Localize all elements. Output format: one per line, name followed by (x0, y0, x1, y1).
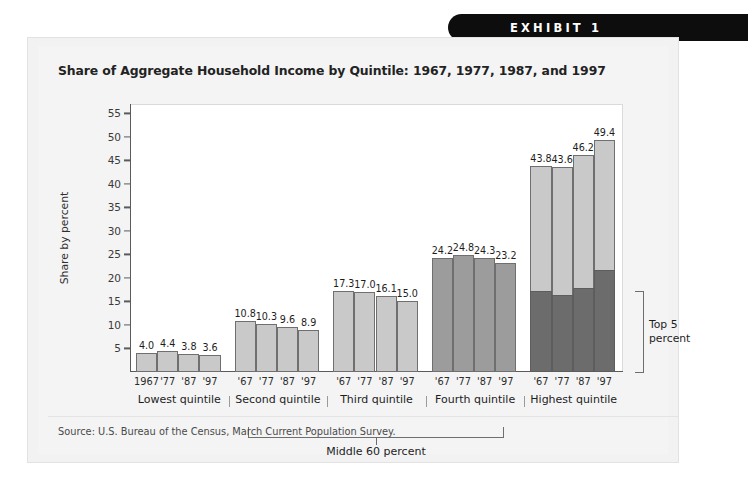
card-divider (48, 416, 678, 417)
y-axis-tick-5: 5 (114, 342, 130, 354)
x-axis-tick-label: '77 (555, 376, 570, 387)
bar-third-quintile-87[interactable] (376, 296, 397, 372)
bar-segment-top-5-percent (594, 270, 615, 372)
y-axis-tick-30: 30 (108, 225, 130, 237)
y-axis-tickmark (124, 113, 130, 114)
exhibit-banner-label: EXHIBIT 1 (510, 21, 602, 35)
bar-second-quintile-77[interactable] (256, 324, 277, 372)
x-axis-tick-label: '87 (280, 376, 295, 387)
bar-lowest-quintile-1967[interactable] (136, 353, 157, 372)
x-axis-tick-label: '97 (301, 376, 316, 387)
y-axis-tick-40: 40 (108, 178, 130, 190)
group-separator (426, 396, 427, 407)
bar-value-label: 24.8 (453, 242, 474, 253)
bar-segment-top-5-percent (530, 291, 551, 372)
bar-value-label: 9.6 (280, 314, 295, 325)
chart-title: Share of Aggregate Household Income by Q… (58, 63, 606, 78)
bar-fourth-quintile-97[interactable] (495, 263, 516, 372)
bar-value-label: 4.4 (160, 338, 175, 349)
bar-highest-quintile-97[interactable] (594, 140, 615, 372)
y-axis-tickmark (124, 324, 130, 325)
x-axis-tick-label: '87 (181, 376, 196, 387)
bar-segment-top-5-percent (552, 295, 573, 372)
x-axis-tick-labels: 1967'77'87'97'67'77'87'97'67'77'87'97'67… (130, 376, 623, 390)
bar-value-label: 24.3 (474, 245, 495, 256)
group-separator (327, 396, 328, 407)
x-axis-tick-label: '77 (456, 376, 471, 387)
x-axis-tick-label: '77 (160, 376, 175, 387)
y-axis-tick-55: 55 (108, 107, 130, 119)
y-axis-tickmark (124, 160, 130, 161)
bar-lowest-quintile-97[interactable] (199, 355, 220, 372)
bar-lowest-quintile-87[interactable] (178, 354, 199, 372)
top-5-percent-label-line1: Top 5 (649, 318, 690, 332)
x-axis-tick-label: '77 (357, 376, 372, 387)
y-axis-tickmark (124, 183, 130, 184)
middle-60-bracket-stem (376, 438, 377, 445)
source-note: Source: U.S. Bureau of the Census, March… (58, 426, 396, 437)
chart-plot-wrapper: 510152025303540455055 Share by percent 4… (130, 104, 623, 372)
bar-fourth-quintile-77[interactable] (453, 255, 474, 372)
x-axis-tick-label: '87 (378, 376, 393, 387)
bar-third-quintile-97[interactable] (397, 301, 418, 372)
y-axis-tick-35: 35 (108, 201, 130, 213)
x-axis-tick-label: '97 (597, 376, 612, 387)
middle-60-bracket-label: Middle 60 percent (326, 445, 425, 458)
bar-second-quintile-97[interactable] (298, 330, 319, 372)
x-axis-tick-label: '87 (477, 376, 492, 387)
bar-second-quintile-87[interactable] (277, 327, 298, 372)
exhibit-card: Share of Aggregate Household Income by Q… (28, 38, 678, 462)
bar-segment-top-5-percent (573, 288, 594, 372)
group-label-third-quintile: Third quintile (340, 393, 413, 406)
exhibit-banner: EXHIBIT 1 (448, 14, 748, 41)
bar-second-quintile-67[interactable] (235, 321, 256, 372)
group-label-lowest-quintile: Lowest quintile (138, 393, 221, 406)
y-axis-tickmark (124, 348, 130, 349)
bar-value-label: 24.2 (432, 245, 453, 256)
x-axis-tick-label: '97 (202, 376, 217, 387)
y-axis-tick-10: 10 (108, 319, 130, 331)
bar-highest-quintile-87[interactable] (573, 155, 594, 372)
bar-value-label: 10.3 (256, 311, 277, 322)
bar-value-label: 16.1 (375, 283, 396, 294)
bar-value-label: 3.8 (181, 341, 196, 352)
bar-value-label: 15.0 (397, 288, 418, 299)
bar-value-label: 23.2 (495, 250, 516, 261)
y-axis-label: Share by percent (58, 192, 71, 285)
y-axis-tick-15: 15 (108, 295, 130, 307)
y-axis-tick-20: 20 (108, 272, 130, 284)
x-axis-tick-label: '67 (435, 376, 450, 387)
x-axis-group-labels: Lowest quintileSecond quintileThird quin… (130, 393, 623, 409)
y-axis-tickmark (124, 230, 130, 231)
bar-value-label: 46.2 (573, 142, 594, 153)
y-axis-tick-25: 25 (108, 248, 130, 260)
x-axis-tick-label: '67 (533, 376, 548, 387)
y-axis-tickmark (124, 207, 130, 208)
group-separator (229, 396, 230, 407)
top-5-percent-label: Top 5 percent (649, 318, 690, 346)
bar-third-quintile-77[interactable] (354, 292, 375, 372)
bar-lowest-quintile-77[interactable] (157, 351, 178, 372)
x-axis-tick-label: 1967 (134, 376, 159, 387)
bar-value-label: 17.0 (354, 279, 375, 290)
group-label-highest-quintile: Highest quintile (530, 393, 617, 406)
bar-value-label: 49.4 (594, 127, 615, 138)
x-axis-tick-label: '77 (259, 376, 274, 387)
y-axis-tickmark (124, 277, 130, 278)
bar-fourth-quintile-87[interactable] (474, 258, 495, 372)
y-axis-tick-50: 50 (108, 131, 130, 143)
x-axis-tick-label: '67 (238, 376, 253, 387)
y-axis-tickmark (124, 254, 130, 255)
bar-fourth-quintile-67[interactable] (432, 258, 453, 372)
group-label-fourth-quintile: Fourth quintile (435, 393, 515, 406)
y-axis-tickmark (124, 301, 130, 302)
bar-third-quintile-67[interactable] (333, 291, 354, 372)
bar-value-label: 43.6 (551, 154, 572, 165)
bar-highest-quintile-77[interactable] (552, 167, 573, 372)
x-axis-tick-label: '97 (400, 376, 415, 387)
bar-highest-quintile-67[interactable] (530, 166, 551, 372)
bar-value-label: 4.0 (139, 340, 154, 351)
y-axis-tickmark (124, 136, 130, 137)
x-axis-tick-label: '87 (576, 376, 591, 387)
group-separator (524, 396, 525, 407)
